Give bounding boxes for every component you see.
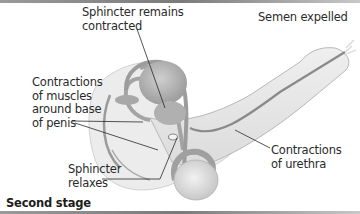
semen-spray bbox=[344, 40, 356, 55]
label-urethra-contractions: Contractions of urethra bbox=[271, 144, 342, 171]
figure-caption: Second stage bbox=[6, 196, 91, 210]
label-semen-expelled: Semen expelled bbox=[258, 11, 348, 25]
label-sphincter-contracted: Sphincter remains contracted bbox=[82, 6, 184, 33]
seminal-vesicle bbox=[115, 95, 139, 105]
prostate bbox=[154, 101, 186, 125]
bladder bbox=[139, 61, 187, 105]
label-sphincter-relaxes: Sphincter relaxes bbox=[68, 163, 121, 190]
testis bbox=[174, 160, 218, 200]
label-muscle-contractions: Contractions of muscles around base of p… bbox=[32, 76, 103, 130]
bottom-frame-bar bbox=[0, 211, 360, 214]
